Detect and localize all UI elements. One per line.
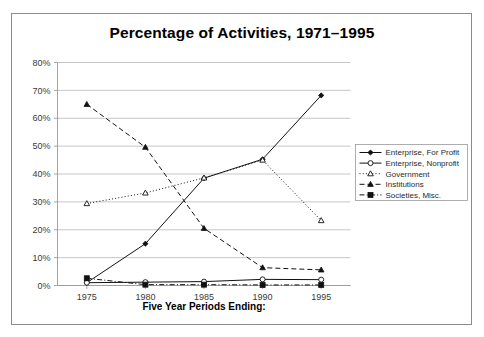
data-point-marker	[260, 265, 266, 270]
data-point-marker	[84, 201, 90, 206]
legend-label: Institutions	[386, 180, 424, 189]
y-axis-ticks: 0%10%20%30%40%50%60%70%80%	[32, 58, 57, 291]
data-point-marker	[84, 276, 89, 281]
x-tick-label: 1990	[253, 292, 273, 302]
legend-label: Enterprise, Nonprofit	[386, 159, 460, 168]
y-tick-label: 50%	[32, 141, 50, 151]
legend-label: Government	[386, 170, 431, 179]
y-tick-label: 40%	[32, 169, 50, 179]
series-line	[87, 104, 321, 270]
x-tick-label: 1975	[77, 292, 97, 302]
data-point-marker	[319, 277, 324, 282]
legend-marker	[368, 192, 373, 197]
data-series-group	[84, 93, 324, 288]
series-line	[87, 160, 321, 220]
chart-legend: Enterprise, For ProfitEnterprise, Nonpro…	[356, 145, 468, 201]
data-point-marker	[202, 282, 207, 287]
series-line	[87, 95, 321, 282]
data-series	[84, 157, 324, 222]
y-tick-label: 60%	[32, 113, 50, 123]
legend-marker	[368, 161, 373, 166]
y-tick-label: 30%	[32, 197, 50, 207]
data-point-marker	[143, 282, 148, 287]
data-point-marker	[143, 144, 149, 149]
line-chart-plot: 0%10%20%30%40%50%60%70%80% 1975198019851…	[0, 0, 484, 337]
data-series	[84, 93, 324, 286]
y-tick-label: 10%	[32, 253, 50, 263]
legend-label: Societies, Misc.	[386, 191, 442, 200]
x-tick-label: 1985	[194, 292, 214, 302]
chart-figure: Percentage of Activities, 1971–1995 0%10…	[0, 0, 484, 337]
data-point-marker	[260, 282, 265, 287]
y-tick-label: 70%	[32, 86, 50, 96]
y-tick-label: 0%	[37, 281, 50, 291]
data-point-marker	[319, 282, 324, 287]
y-tick-label: 20%	[32, 225, 50, 235]
legend-label: Enterprise, For Profit	[386, 148, 461, 157]
x-tick-label: 1995	[311, 292, 331, 302]
x-axis-title: Five Year Periods Ending:	[142, 301, 265, 312]
data-point-marker	[260, 277, 265, 282]
data-point-marker	[84, 101, 90, 106]
x-axis-ticks: 19751980198519901995	[77, 286, 331, 302]
y-tick-label: 80%	[32, 58, 50, 68]
gridlines	[58, 63, 351, 286]
x-tick-label: 1980	[135, 292, 155, 302]
